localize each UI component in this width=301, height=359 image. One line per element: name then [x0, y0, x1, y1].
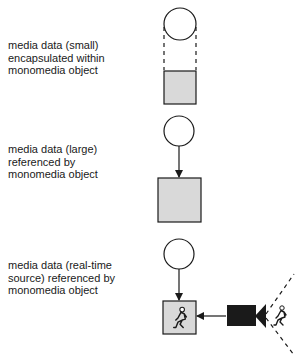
media-data-large-square [158, 178, 201, 222]
running-person-icon [274, 306, 286, 325]
row-referenced-large [158, 116, 201, 222]
row-realtime-source [163, 239, 294, 355]
diagram-canvas [0, 0, 301, 359]
monomedia-object-circle-icon [164, 116, 194, 146]
field-of-view-lower [266, 318, 294, 355]
row-encapsulated [164, 8, 196, 104]
video-camera-icon [227, 304, 266, 328]
monomedia-object-circle-icon [164, 8, 196, 40]
media-data-small-square [164, 71, 196, 104]
monomedia-object-circle-icon [164, 239, 194, 269]
media-data-realtime-square [163, 301, 196, 334]
